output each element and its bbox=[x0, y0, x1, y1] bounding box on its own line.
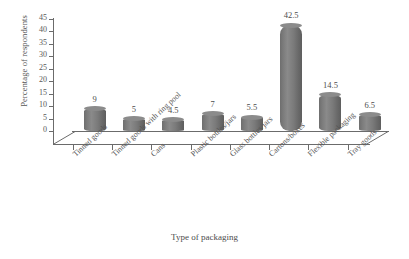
y-axis-tick-label: 5 bbox=[43, 113, 47, 122]
bar-value-label: 42.5 bbox=[284, 10, 299, 20]
bar-value-label: 14.5 bbox=[323, 80, 338, 90]
y-axis-title: Percentage of respondents bbox=[19, 0, 29, 131]
y-axis-tick-label: 10 bbox=[39, 100, 47, 109]
y-axis-tick-label: 30 bbox=[39, 50, 47, 59]
bar-cylinder bbox=[280, 25, 302, 131]
bar-cylinder-top bbox=[162, 117, 184, 122]
bar-value-label: 7 bbox=[210, 99, 214, 109]
bar-value-label: 5 bbox=[132, 104, 136, 114]
bar-cylinder-top bbox=[202, 111, 224, 116]
y-axis-tick: 5 bbox=[49, 119, 54, 120]
y-axis-tick-label: 0 bbox=[43, 125, 47, 134]
bar-cylinder-top bbox=[84, 106, 106, 111]
bar-cylinder-top bbox=[241, 115, 263, 120]
y-axis-tick-label: 40 bbox=[39, 25, 47, 34]
bar-value-label: 5.5 bbox=[247, 102, 258, 112]
y-axis-tick: 45 bbox=[49, 19, 54, 20]
y-axis-tick: 0 bbox=[49, 131, 54, 132]
bar-column[interactable]: 42.5 bbox=[280, 25, 302, 131]
y-axis-tick: 40 bbox=[49, 31, 54, 32]
y-axis-tick: 35 bbox=[49, 44, 54, 45]
y-axis-tick: 25 bbox=[49, 69, 54, 70]
y-axis-tick: 15 bbox=[49, 94, 54, 95]
bar-cylinder-top bbox=[319, 92, 341, 97]
bar-chart: Percentage of respondents 45403530252015… bbox=[0, 0, 409, 259]
y-axis-tick: 20 bbox=[49, 81, 54, 82]
y-axis-tick-label: 35 bbox=[39, 38, 47, 47]
bar-cylinder-top bbox=[280, 23, 302, 28]
y-axis-tick-label: 15 bbox=[39, 88, 47, 97]
bar-cylinder bbox=[162, 120, 184, 131]
y-axis-tick-label: 20 bbox=[39, 75, 47, 84]
bar-column[interactable]: 4.5 bbox=[162, 120, 184, 131]
bar-cylinder-top bbox=[359, 112, 381, 117]
y-axis-tick-label: 25 bbox=[39, 63, 47, 72]
y-axis-tick: 30 bbox=[49, 56, 54, 57]
x-axis-title: Type of packaging bbox=[0, 232, 409, 242]
bar-value-label: 6.5 bbox=[364, 100, 375, 110]
y-axis-tick-label: 45 bbox=[39, 13, 47, 22]
bar-value-label: 9 bbox=[93, 94, 97, 104]
floor-left-edge bbox=[53, 131, 76, 145]
bar-cylinder-top bbox=[123, 116, 145, 121]
y-axis-tick: 10 bbox=[49, 106, 54, 107]
